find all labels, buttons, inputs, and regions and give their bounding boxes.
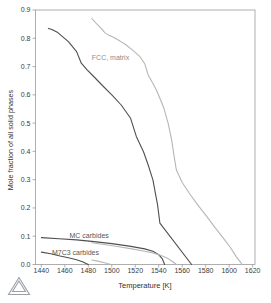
y-tick-label: 0.7 <box>21 63 31 70</box>
curve-m7c3-carbides-light <box>92 260 111 265</box>
y-tick-label: 0.4 <box>21 148 31 155</box>
thermo-calc-logo-icon <box>9 278 30 295</box>
x-tick-label: 1460 <box>57 267 73 274</box>
x-tick-label: 1620 <box>245 267 261 274</box>
y-tick-label: 0.1 <box>21 233 31 240</box>
x-tick-label: 1540 <box>151 267 167 274</box>
y-tick-label: 0.5 <box>21 120 31 127</box>
x-tick-label: 1600 <box>221 267 237 274</box>
phase-fraction-chart: 1440146014801500152015401560158016001620… <box>0 0 271 303</box>
curve-label-m7c3-carbides: M7C3 carbides <box>52 249 100 256</box>
x-tick-label: 1560 <box>174 267 190 274</box>
curve-label-fcc-matrix: FCC, matrix <box>92 54 130 61</box>
x-tick-label: 1580 <box>198 267 214 274</box>
phase-fraction-figure: 1440146014801500152015401560158016001620… <box>0 0 271 303</box>
x-tick-label: 1500 <box>104 267 120 274</box>
x-tick-label: 1520 <box>127 267 143 274</box>
curve-label-mc-carbides: MC carbides <box>70 232 110 239</box>
x-tick-label: 1440 <box>34 267 50 274</box>
y-tick-label: 0.8 <box>21 35 31 42</box>
y-tick-label: 0.3 <box>21 176 31 183</box>
plot-frame <box>36 10 256 265</box>
y-tick-label: 0.9 <box>21 6 31 13</box>
y-tick-label: 0.0 <box>21 261 31 268</box>
y-tick-label: 0.2 <box>21 204 31 211</box>
y-tick-label: 0.6 <box>21 91 31 98</box>
plot-area: 1440146014801500152015401560158016001620… <box>21 6 261 274</box>
logo-inner-triangle <box>13 281 26 292</box>
curve-fcc-matrix-dark <box>48 28 191 264</box>
x-tick-label: 1480 <box>81 267 97 274</box>
x-axis-label: Temperature [K] <box>118 281 171 290</box>
y-axis-label: Mole fraction of all solid phases <box>6 89 15 190</box>
